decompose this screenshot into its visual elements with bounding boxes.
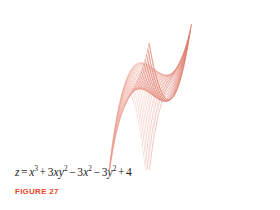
equation-term5-constant: 4 bbox=[126, 166, 132, 178]
figure-caption: FIGURE 27 bbox=[15, 187, 59, 196]
figure-container: z=x3+3xy2−3x2−3y2+4 FIGURE 27 bbox=[0, 0, 280, 210]
mesh-gridlines-u bbox=[105, 24, 191, 170]
equation-operator-4: + bbox=[116, 166, 126, 178]
surface-mesh-plot bbox=[0, 0, 280, 170]
equation-equals: = bbox=[20, 166, 30, 178]
mesh-gridlines-v bbox=[105, 24, 191, 170]
equation-lhs: z bbox=[15, 166, 20, 178]
equation-operator-2: − bbox=[68, 166, 78, 178]
equation-operator-3: − bbox=[92, 166, 102, 178]
surface-mesh-svg bbox=[0, 0, 280, 170]
equation-operator-1: + bbox=[38, 166, 48, 178]
equation-label: z=x3+3xy2−3x2−3y2+4 bbox=[15, 166, 132, 178]
